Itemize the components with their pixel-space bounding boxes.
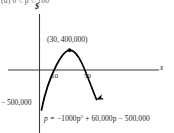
vertex-point — [68, 48, 72, 52]
y-intercept-label: − 500,000 — [1, 99, 31, 107]
parabola-curve — [42, 50, 97, 110]
equation-caption: p = −1000p2 + 60,000p − 500,000 — [44, 115, 150, 123]
vertex-coordinate-label: (30, 400,000) — [47, 36, 88, 44]
equation-lead: p = — [44, 114, 57, 123]
x-tick-label-50: 50 — [84, 73, 91, 80]
y-axis-label: $ — [35, 3, 39, 11]
x-axis-label: x — [160, 64, 163, 72]
equation-term1: −1000p — [57, 114, 81, 123]
x-tick-label-10: 10 — [51, 73, 58, 80]
equation-rest: + 60,000p − 500,000 — [83, 114, 150, 123]
parabola-figure: (d) 0 ≤ p ≤ 100 $ x (30, 400,000) 10 50 … — [0, 0, 174, 133]
